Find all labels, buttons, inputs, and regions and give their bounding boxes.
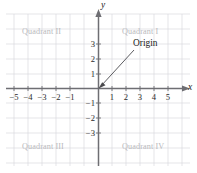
x-tick-label--1: −1 bbox=[63, 92, 77, 102]
quadrant-label-iii: Quadrant III bbox=[22, 142, 64, 151]
x-tick-label-3: 3 bbox=[133, 92, 147, 102]
quadrant-label-i: Quadrant I bbox=[122, 27, 158, 36]
x-tick-label--3: −3 bbox=[35, 92, 49, 102]
x-tick-label--5: −5 bbox=[7, 92, 21, 102]
y-tick-label--1: −1 bbox=[80, 98, 95, 108]
x-tick-label-5: 5 bbox=[161, 92, 175, 102]
y-tick-label--3: −3 bbox=[80, 128, 95, 138]
y-tick-label--2: −2 bbox=[80, 113, 95, 123]
quadrant-label-ii: Quadrant II bbox=[22, 27, 61, 36]
y-axis-label: y bbox=[101, 0, 105, 10]
x-tick-label-2: 2 bbox=[119, 92, 133, 102]
y-axis bbox=[95, 9, 101, 166]
origin-leader-line bbox=[99, 50, 135, 89]
x-axis-label: x bbox=[188, 82, 192, 92]
x-tick-label--4: −4 bbox=[21, 92, 35, 102]
x-tick-label-1: 1 bbox=[105, 92, 119, 102]
quadrant-label-iv: Quadrant IV bbox=[122, 142, 164, 151]
y-tick-label-1: 1 bbox=[83, 69, 95, 79]
coordinate-plane-figure: Quadrant II Quadrant I Quadrant III Quad… bbox=[0, 0, 197, 173]
origin-annotation-label: Origin bbox=[133, 38, 157, 48]
y-tick-label-2: 2 bbox=[83, 54, 95, 64]
y-tick-label-3: 3 bbox=[83, 39, 95, 49]
x-tick-label--2: −2 bbox=[49, 92, 63, 102]
x-tick-label-4: 4 bbox=[147, 92, 161, 102]
